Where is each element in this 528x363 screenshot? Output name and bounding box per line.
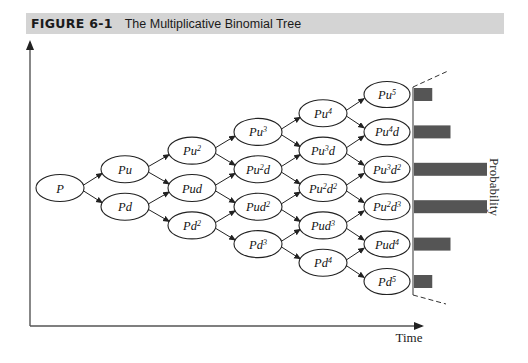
tree-node: Pd2 — [168, 212, 216, 239]
up-move-arrow — [214, 211, 235, 224]
tree-node: Pud — [168, 175, 216, 202]
up-move-arrow — [147, 192, 169, 205]
down-move-arrow — [345, 153, 364, 166]
binomial-tree-diagram: PPuPdPu2PudPd2Pu3Pu2dPud2Pd3Pu4Pu3dPu2d2… — [0, 0, 528, 363]
node-label: Pu — [117, 163, 132, 177]
up-move-arrow — [345, 248, 364, 261]
down-move-arrow — [280, 134, 300, 147]
probability-bar — [414, 163, 487, 176]
tree-node: Pu3d2 — [364, 156, 410, 182]
tree-node: Pd — [101, 193, 149, 220]
up-move-arrow — [345, 173, 364, 186]
down-move-arrow — [214, 227, 235, 240]
tree-node: Pud3 — [299, 212, 347, 239]
tree-node: Pu2d3 — [364, 194, 410, 220]
up-move-arrow — [280, 192, 300, 205]
up-move-arrow — [280, 155, 300, 168]
down-move-arrow — [345, 115, 364, 128]
down-move-arrow — [147, 209, 169, 222]
upper-bound-dashed-line — [413, 71, 448, 87]
tree-node: Pd5 — [364, 269, 410, 295]
probability-bar — [414, 88, 432, 101]
node-label: Pd — [117, 200, 133, 214]
down-move-arrow — [214, 190, 235, 203]
up-move-arrow — [214, 173, 235, 186]
up-move-arrow — [345, 99, 364, 112]
tree-node: Pu2d — [234, 156, 282, 183]
down-move-arrow — [280, 171, 300, 184]
tree-node: P — [36, 175, 84, 202]
time-axis-label: Time — [396, 330, 423, 345]
tree-node: Pu3 — [234, 118, 282, 145]
up-move-arrow — [82, 173, 102, 186]
tree-node: Pu2 — [168, 137, 216, 164]
tree-node: Pu4 — [299, 100, 347, 127]
down-move-arrow — [345, 190, 364, 203]
probability-distribution — [413, 71, 487, 304]
up-move-arrow — [280, 117, 300, 130]
down-move-arrow — [345, 265, 364, 278]
down-move-arrow — [147, 171, 169, 184]
tree-nodes: PPuPdPu2PudPd2Pu3Pu2dPud2Pd3Pu4Pu3dPu2d2… — [36, 82, 410, 295]
up-move-arrow — [147, 155, 169, 168]
probability-bar — [414, 200, 487, 213]
lower-bound-dashed-line — [413, 295, 446, 304]
down-move-arrow — [280, 246, 300, 259]
up-move-arrow — [280, 229, 300, 242]
down-move-arrow — [214, 153, 235, 166]
tree-node: Pu4d — [364, 119, 410, 145]
node-label: Pu2d — [245, 163, 271, 177]
down-move-arrow — [82, 190, 102, 203]
probability-bar — [414, 275, 432, 288]
tree-node: Pu5 — [364, 82, 410, 108]
node-label: Pu3d — [310, 144, 336, 158]
tree-node: Pu3d — [299, 137, 347, 164]
node-label: Pu3d2 — [372, 163, 401, 177]
node-label: Pu2d2 — [308, 182, 337, 196]
tree-node: Pud4 — [364, 231, 410, 257]
node-label: Pud — [181, 182, 203, 196]
down-move-arrow — [280, 209, 300, 222]
tree-node: Pu2d2 — [299, 175, 347, 202]
node-label: Pu2d3 — [372, 200, 401, 214]
tree-node: Pud2 — [234, 193, 282, 220]
probability-bar — [414, 125, 451, 138]
up-move-arrow — [345, 136, 364, 149]
tree-node: Pd4 — [299, 249, 347, 276]
node-label: P — [55, 182, 64, 196]
tree-node: Pd3 — [234, 231, 282, 258]
probability-bar — [414, 238, 451, 251]
up-move-arrow — [214, 136, 235, 149]
down-move-arrow — [345, 227, 364, 240]
node-label: Pu4d — [374, 125, 400, 139]
up-move-arrow — [345, 211, 364, 224]
probability-axis-label: Probability — [487, 158, 502, 216]
tree-node: Pu — [101, 156, 149, 183]
axes — [30, 42, 422, 326]
